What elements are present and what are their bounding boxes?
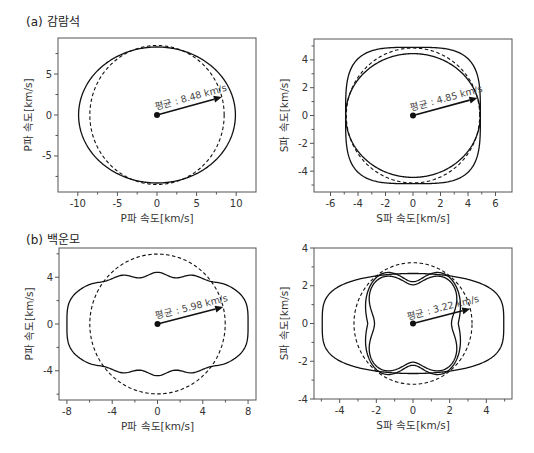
y-axis-label: P파 속도[km/s] [23, 287, 35, 360]
x-tick-label: -10 [70, 198, 86, 209]
x-tick-label: -2 [381, 198, 391, 209]
y-tick-label: -2 [298, 138, 308, 149]
y-tick-label: -5 [42, 150, 52, 161]
x-tick-label: 5 [193, 198, 199, 209]
x-tick-label: 8 [245, 406, 251, 417]
y-tick-label: 0 [302, 318, 308, 329]
y-tick-label: -2 [298, 356, 308, 367]
chart-panel-4: -4-2024-4-2024S파 속도[km/s]S파 속도[km/s]평균 :… [278, 243, 512, 432]
x-tick-label: 0 [154, 198, 160, 209]
x-tick-label: -8 [62, 406, 72, 417]
y-axis-label: S파 속도[km/s] [278, 79, 290, 153]
x-tick-label: 2 [446, 405, 452, 416]
x-tick-label: 4 [200, 406, 206, 417]
y-tick-label: 4 [47, 272, 53, 283]
x-tick-label: 4 [465, 198, 471, 209]
y-tick-label: 4 [302, 243, 308, 254]
y-tick-label: -4 [43, 365, 53, 376]
x-tick-label: 2 [437, 198, 443, 209]
x-axis-label: S파 속도[km/s] [376, 212, 450, 224]
y-tick-label: 2 [302, 82, 308, 93]
y-tick-label: 0 [46, 110, 52, 121]
y-tick-label: 0 [302, 110, 308, 121]
x-tick-label: -6 [326, 198, 336, 209]
x-axis-label: P파 속도[km/s] [121, 420, 194, 432]
x-tick-label: 4 [483, 405, 489, 416]
x-tick-label: 0 [410, 405, 416, 416]
arrow-head-icon [213, 96, 222, 103]
x-tick-label: 0 [154, 406, 160, 417]
chart-panel-2: -6-4-20246-4-2024S파 속도[km/s]S파 속도[km/s]평… [278, 39, 512, 224]
chart-panel-1: -10-50510-505P파 속도[km/s]P파 속도[km/s]평균 : … [22, 38, 256, 224]
chart-panel-3: -8-4048-404P파 속도[km/s]P파 속도[km/s]평균 : 5.… [23, 248, 256, 432]
y-axis-label: P파 속도[km/s] [22, 78, 34, 151]
y-tick-label: 4 [302, 54, 308, 65]
x-tick-label: 6 [492, 198, 498, 209]
y-tick-label: 5 [46, 69, 52, 80]
x-tick-label: -4 [335, 405, 345, 416]
x-axis-label: S파 속도[km/s] [376, 419, 450, 431]
mean-annotation: 평균 : 3.22 km/s [405, 293, 480, 322]
y-tick-label: -4 [298, 394, 308, 405]
x-axis-label: P파 속도[km/s] [120, 212, 193, 224]
y-axis-label: S파 속도[km/s] [278, 287, 290, 361]
x-tick-label: -5 [112, 198, 122, 209]
y-tick-label: 2 [302, 280, 308, 291]
arrow-head-icon [215, 306, 224, 313]
x-tick-label: 0 [410, 198, 416, 209]
x-tick-label: -4 [353, 198, 363, 209]
x-tick-label: 10 [230, 198, 243, 209]
x-tick-label: -2 [371, 405, 381, 416]
figure: -10-50510-505P파 속도[km/s]P파 속도[km/s]평균 : … [0, 0, 534, 453]
x-tick-label: -4 [107, 406, 117, 417]
arrow-head-icon [462, 307, 471, 314]
y-tick-label: -4 [298, 166, 308, 177]
y-tick-label: 0 [47, 319, 53, 330]
arrow-head-icon [469, 97, 478, 104]
